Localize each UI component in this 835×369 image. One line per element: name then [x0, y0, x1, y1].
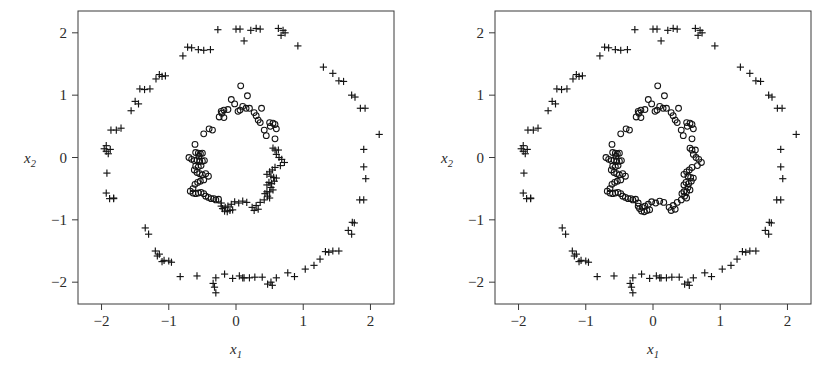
data-point-cross	[653, 25, 660, 32]
scatter-plot-right: −2−1012−2−1012x1x2	[417, 0, 835, 369]
data-point-circle	[259, 105, 265, 111]
x-tick-label: 2	[367, 313, 375, 329]
x-tick-label: −1	[578, 313, 594, 329]
data-point-cross	[335, 77, 342, 84]
series-inner-ring-crosses	[218, 145, 288, 216]
data-point-cross	[777, 163, 784, 170]
data-point-cross	[110, 194, 117, 201]
data-point-cross	[259, 274, 266, 281]
data-point-circle	[649, 101, 655, 107]
data-point-circle	[225, 107, 231, 113]
data-point-cross	[629, 289, 636, 296]
data-point-circle	[627, 127, 633, 133]
y-tick-label: 1	[60, 87, 68, 103]
data-point-cross	[221, 270, 228, 277]
data-point-cross	[757, 78, 764, 85]
data-point-cross	[103, 169, 110, 176]
data-point-circle	[680, 133, 686, 139]
data-point-cross	[638, 270, 645, 277]
data-point-cross	[617, 47, 624, 54]
data-point-cross	[601, 44, 608, 51]
data-point-circle	[662, 93, 668, 99]
data-point-cross	[684, 279, 691, 286]
x-tick-label: 0	[232, 313, 240, 329]
y-axis-title: x2	[440, 150, 454, 169]
y-axis-title: x2	[23, 150, 37, 169]
data-point-cross	[348, 92, 355, 99]
data-point-cross	[742, 249, 749, 256]
data-point-cross	[701, 269, 708, 276]
data-point-cross	[103, 189, 110, 196]
data-point-circle	[623, 126, 629, 132]
data-point-cross	[243, 199, 250, 206]
x-tick-label: −2	[94, 313, 110, 329]
plot-frame	[78, 11, 394, 304]
y-axis-title-subscript: 2	[448, 158, 454, 169]
data-point-cross	[247, 27, 254, 34]
data-point-cross	[325, 249, 332, 256]
plot-frame	[495, 11, 811, 304]
data-point-circle	[655, 83, 661, 89]
x-tick-label: −2	[511, 313, 527, 329]
x-axis-title-subscript: 1	[237, 349, 242, 360]
scatter-plot-left: −2−1012−2−1012x1x2	[0, 0, 418, 369]
data-point-cross	[360, 163, 367, 170]
data-point-cross	[520, 189, 527, 196]
data-point-cross	[768, 93, 775, 100]
data-point-cross	[520, 169, 527, 176]
data-point-circle	[201, 131, 207, 137]
data-point-cross	[752, 77, 759, 84]
data-point-cross	[329, 247, 336, 254]
data-point-cross	[277, 162, 284, 169]
data-point-cross	[128, 107, 135, 114]
data-point-circle	[232, 101, 238, 107]
x-axis-title: x1	[229, 341, 242, 360]
data-point-cross	[310, 262, 317, 269]
data-point-cross	[361, 105, 368, 112]
data-point-cross	[605, 44, 612, 51]
data-point-cross	[316, 256, 323, 263]
data-point-cross	[141, 86, 148, 93]
data-point-circle	[210, 127, 216, 133]
data-point-cross	[596, 52, 603, 59]
data-point-cross	[239, 274, 246, 281]
data-point-cross	[236, 25, 243, 32]
two-panel-scatter-figure: −2−1012−2−1012x1x2 −2−1012−2−1012x1x2	[0, 0, 835, 369]
data-point-cross	[624, 46, 631, 53]
data-point-cross	[765, 231, 772, 238]
y-axis-title-subscript: 2	[31, 158, 37, 169]
y-tick-label: 0	[60, 150, 68, 166]
data-point-cross	[107, 126, 114, 133]
data-point-cross	[162, 72, 169, 79]
data-point-cross	[656, 274, 663, 281]
data-point-cross	[793, 131, 800, 138]
y-tick-label: 0	[477, 150, 485, 166]
data-point-cross	[668, 274, 675, 281]
data-point-cross	[294, 42, 301, 49]
data-point-circle	[678, 127, 684, 133]
data-point-circle	[261, 127, 267, 133]
data-point-cross	[184, 44, 191, 51]
data-point-circle	[642, 107, 648, 113]
y-tick-label: −1	[468, 212, 484, 228]
data-point-circle	[263, 133, 269, 139]
data-point-cross	[545, 107, 552, 114]
data-point-cross	[579, 72, 586, 79]
data-point-cross	[711, 42, 718, 49]
data-point-cross	[351, 93, 358, 100]
data-point-cross	[211, 284, 218, 291]
data-point-cross	[146, 85, 153, 92]
y-tick-label: 1	[477, 87, 485, 103]
data-point-cross	[269, 282, 276, 289]
data-point-cross	[195, 46, 202, 53]
data-point-cross	[708, 273, 715, 280]
data-point-cross	[628, 284, 635, 291]
data-point-cross	[240, 37, 247, 44]
data-point-circle	[192, 142, 198, 148]
data-point-cross	[207, 46, 214, 53]
data-point-cross	[376, 131, 383, 138]
data-point-cross	[746, 70, 753, 77]
data-point-circle	[272, 136, 278, 142]
data-point-cross	[329, 70, 336, 77]
data-point-cross	[214, 26, 221, 33]
